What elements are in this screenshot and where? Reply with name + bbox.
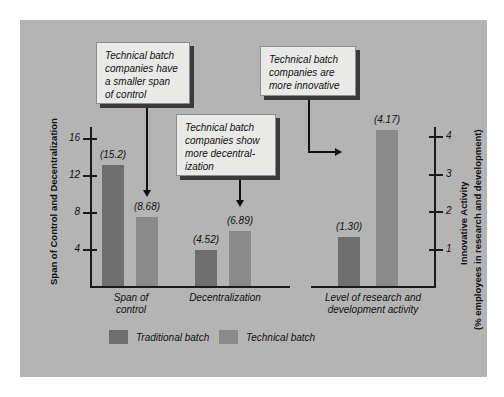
- callout-one-arrowhead-icon: [143, 190, 151, 197]
- right-axis-tick-label-3: 3: [446, 168, 468, 179]
- callout-two-line3: more decentral-: [185, 147, 268, 160]
- callout-one-line1: Technical batch: [105, 49, 182, 62]
- bar-rnd-technical: [376, 130, 398, 286]
- bar-span-traditional: [102, 165, 124, 286]
- callout-two-arrowhead-icon: [236, 200, 244, 207]
- right-axis-tick-3: [429, 174, 443, 176]
- right-axis-tick-2: [429, 211, 443, 213]
- bar-decentralization-traditional: [195, 250, 217, 286]
- category-label-span-line2: control: [90, 304, 172, 316]
- callout-one-line3: a smaller span: [105, 75, 182, 88]
- callout-two-connector-line: [239, 180, 241, 202]
- legend-label-traditional: Traditional batch: [136, 332, 209, 343]
- right-axis-tick-1: [429, 249, 443, 251]
- callout-span-of-control: Technical batch companies have a smaller…: [96, 42, 190, 104]
- right-axis-tick-label-4: 4: [446, 130, 468, 141]
- left-axis-tick-16: [83, 138, 97, 140]
- left-axis-tick-4: [83, 249, 97, 251]
- callout-three-line3: more innovative: [269, 79, 348, 92]
- category-label-rnd-line1: Level of research and: [303, 292, 443, 304]
- callout-three-line1: Technical batch: [269, 53, 348, 66]
- bar-value-span-technical: (8.68): [117, 201, 177, 212]
- bar-decentralization-technical: [229, 231, 251, 286]
- callout-innovation: Technical batch companies are more innov…: [260, 46, 356, 96]
- bar-value-rnd-traditional: (1.30): [319, 221, 379, 232]
- left-axis-tick-label-8: 8: [58, 206, 80, 217]
- callout-three-line2: companies are: [269, 66, 348, 79]
- bar-rnd-traditional: [338, 237, 360, 286]
- category-label-span-line1: Span of: [90, 292, 172, 304]
- right-axis-title-line2: (% employees in research and development…: [472, 129, 483, 330]
- callout-decentralization: Technical batch companies show more dece…: [176, 114, 276, 176]
- right-y-axis-line: [434, 127, 436, 288]
- left-axis-tick-label-12: 12: [58, 169, 80, 180]
- callout-one-connector-line: [146, 108, 148, 192]
- left-axis-title: Span of Control and Decentralization: [48, 118, 59, 285]
- chart-figure: 16 12 8 4 Span of Control and Decentrali…: [0, 0, 504, 397]
- left-axis-tick-12: [83, 175, 97, 177]
- callout-one-line2: companies have: [105, 62, 182, 75]
- left-axis-tick-label-16: 16: [58, 132, 80, 143]
- legend-swatch-technical: [219, 330, 238, 344]
- left-axis-tick-label-4: 4: [58, 243, 80, 254]
- right-axis-title-line1: Innovative Activity: [458, 181, 469, 265]
- callout-three-connector-horizontal: [308, 151, 337, 153]
- callout-three-arrowhead-icon: [335, 148, 342, 156]
- callout-one-line4: of control: [105, 88, 182, 101]
- legend-swatch-traditional: [109, 330, 128, 344]
- callout-three-connector-vertical: [308, 100, 310, 153]
- legend-label-technical: Technical batch: [246, 332, 315, 343]
- bar-value-decentralization-technical: (6.89): [210, 215, 270, 226]
- bar-value-decentralization-traditional: (4.52): [176, 234, 236, 245]
- category-label-decentralization: Decentralization: [180, 292, 270, 304]
- right-x-axis-line: [311, 286, 436, 288]
- left-x-axis-line: [90, 286, 290, 288]
- right-axis-tick-4: [429, 136, 443, 138]
- category-label-rnd-line2: development activity: [303, 304, 443, 316]
- chart-panel: 16 12 8 4 Span of Control and Decentrali…: [20, 20, 487, 377]
- category-label-rnd: Level of research and development activi…: [303, 292, 443, 316]
- callout-two-line4: ization: [185, 160, 268, 173]
- callout-two-line1: Technical batch: [185, 121, 268, 134]
- bar-value-span-traditional: (15.2): [83, 149, 143, 160]
- category-label-span-of-control: Span of control: [90, 292, 172, 316]
- left-axis-tick-8: [83, 212, 97, 214]
- callout-two-line2: companies show: [185, 134, 268, 147]
- bar-span-technical: [136, 217, 158, 286]
- bar-value-rnd-technical: (4.17): [357, 114, 417, 125]
